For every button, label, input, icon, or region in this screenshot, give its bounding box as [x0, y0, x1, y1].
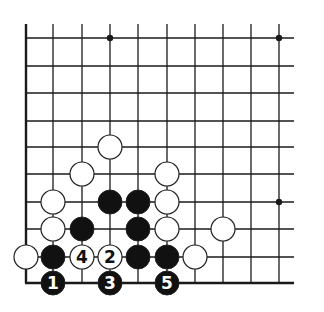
- black-stone: [70, 217, 94, 241]
- black-stone: [126, 190, 150, 214]
- star-point: [107, 35, 113, 41]
- white-stone: [41, 190, 65, 214]
- black-stone: [126, 217, 150, 241]
- board-grid: [25, 24, 294, 283]
- move-number: 1: [47, 273, 59, 293]
- white-stone: [98, 135, 122, 159]
- move-number: 3: [104, 273, 116, 293]
- star-point: [276, 35, 282, 41]
- star-point: [276, 199, 282, 205]
- white-stone: [155, 190, 179, 214]
- black-stone: [41, 245, 65, 269]
- move-number: 4: [76, 247, 88, 267]
- white-stone: [183, 245, 207, 269]
- black-stone: 5: [155, 271, 179, 295]
- move-number: 2: [104, 247, 116, 267]
- white-stone: [211, 217, 235, 241]
- white-stone: [155, 217, 179, 241]
- black-stone: [155, 245, 179, 269]
- white-stone: 4: [70, 245, 94, 269]
- white-stone: 2: [98, 245, 122, 269]
- black-stone: 3: [98, 271, 122, 295]
- white-stone: [41, 217, 65, 241]
- black-stone: 1: [41, 271, 65, 295]
- move-number: 5: [161, 273, 173, 293]
- black-stone: [98, 190, 122, 214]
- white-stone: [14, 245, 38, 269]
- go-board: 42135: [0, 0, 324, 312]
- white-stone: [155, 162, 179, 186]
- stones-layer: 42135: [14, 135, 235, 295]
- white-stone: [70, 162, 94, 186]
- black-stone: [126, 245, 150, 269]
